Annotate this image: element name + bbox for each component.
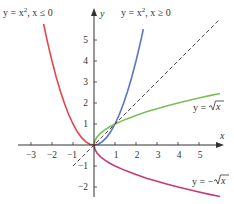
- x-axis-arrow-icon: [216, 142, 224, 148]
- y-tick-label: −1: [78, 161, 88, 171]
- x-tick-label: 1: [114, 150, 119, 160]
- label-neg-sqrt: y = − x: [192, 175, 229, 187]
- x-tick-label: 4: [177, 150, 182, 160]
- x-axis: x: [18, 130, 225, 148]
- y-tick-label: 2: [83, 98, 88, 108]
- x-tick-label: 3: [156, 150, 161, 160]
- label-right-parabola: y = x2, x ≥ 0: [121, 6, 171, 18]
- x-axis-label: x: [219, 130, 225, 141]
- x-tick-labels: −3 −2 −1 1 2 3 4 5: [26, 150, 203, 160]
- y-tick-label: 3: [83, 77, 88, 87]
- y-tick-label: 1: [83, 119, 88, 129]
- label-sqrt: y = x: [193, 101, 224, 113]
- x-tick-label: 5: [198, 150, 203, 160]
- function-graph: x y −3 −2 −1 1 2 3 4 5 1 2 3 4 5 −1 −2: [0, 0, 234, 204]
- svg-text:x: x: [215, 101, 221, 112]
- y-axis-arrow-icon: [91, 8, 97, 16]
- y-axis: y: [91, 8, 105, 197]
- x-tick-label: −3: [26, 150, 36, 160]
- label-left-parabola: y = x2, x ≤ 0: [3, 6, 53, 18]
- svg-text:x: x: [220, 175, 226, 186]
- y-tick-labels: 1 2 3 4 5 −1 −2: [78, 35, 88, 192]
- curve-right-parabola: [94, 29, 143, 145]
- x-tick-label: −2: [47, 150, 57, 160]
- svg-text:y = −: y = −: [192, 176, 214, 187]
- x-tick-label: 2: [135, 150, 140, 160]
- y-tick-label: 5: [83, 35, 88, 45]
- y-tick-label: −2: [78, 182, 88, 192]
- y-tick-label: 4: [83, 56, 88, 66]
- x-tick-label: −1: [67, 150, 77, 160]
- svg-text:y =: y =: [193, 102, 207, 113]
- y-axis-label: y: [99, 8, 105, 19]
